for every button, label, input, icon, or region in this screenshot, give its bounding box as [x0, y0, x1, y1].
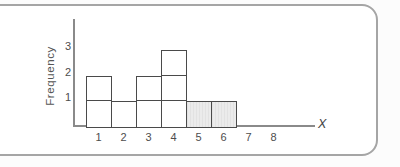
- x-tick-label-7: 7: [239, 131, 259, 143]
- unit-square-divider: [87, 100, 111, 101]
- x-tick-label-6: 6: [214, 131, 234, 143]
- y-tick-label-3: 3: [51, 39, 71, 53]
- histogram-bar-x4: [161, 50, 187, 128]
- unit-square-divider: [162, 75, 186, 76]
- x-axis-title: X: [318, 117, 326, 131]
- x-tick-label-3: 3: [139, 131, 159, 143]
- y-tick-label-1: 1: [51, 90, 71, 104]
- x-tick-label-4: 4: [164, 131, 184, 143]
- unit-square-divider: [137, 100, 161, 101]
- histogram-bar-x5: [186, 101, 212, 128]
- unit-square-divider: [162, 100, 186, 101]
- histogram-bar-x2: [111, 101, 137, 128]
- histogram-bar-x3: [136, 76, 162, 128]
- x-tick-label-5: 5: [189, 131, 209, 143]
- histogram-bar-x6: [211, 101, 237, 128]
- screenshot-stage: Frequency 123 12345678 X: [0, 0, 400, 167]
- x-tick-label-2: 2: [114, 131, 134, 143]
- y-axis-line: [73, 19, 75, 127]
- x-tick-label-8: 8: [264, 131, 284, 143]
- x-tick-label-1: 1: [89, 131, 109, 143]
- y-tick-label-2: 2: [51, 65, 71, 79]
- histogram-bar-x1: [86, 76, 112, 128]
